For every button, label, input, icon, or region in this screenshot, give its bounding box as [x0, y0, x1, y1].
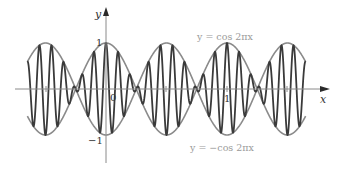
x-axis-arrow-icon	[320, 86, 330, 92]
x-tick-label-1: 1	[224, 93, 230, 104]
label-cos: y = cos 2πx	[196, 31, 254, 42]
y-axis-label: y	[94, 8, 102, 21]
y-tick-label-1: 1	[96, 37, 102, 48]
origin-label: 0	[110, 92, 116, 103]
x-axis-label: x	[320, 93, 327, 106]
label-neg-cos: y = −cos 2πx	[189, 142, 255, 153]
y-axis-arrow-icon	[103, 7, 109, 16]
y-tick-label-neg-1: −1	[88, 135, 103, 146]
chart-canvas: y x 1 −1 0 1 y = cos 2πx y = −cos 2πx	[0, 0, 341, 170]
